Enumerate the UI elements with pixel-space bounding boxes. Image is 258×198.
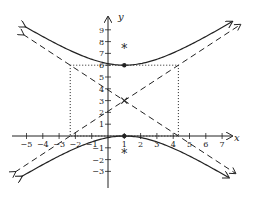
- focus-asterisk: *: [121, 42, 127, 56]
- vertex-dot: [122, 63, 126, 67]
- plot-canvas: −5−4−3−2−11234567−3−2−1123456789 ** x y: [0, 0, 258, 198]
- x-tick-label: −4: [37, 140, 49, 149]
- upper-branch: [25, 22, 232, 65]
- center-cross: [121, 98, 127, 104]
- y-tick-label: 4: [99, 85, 104, 94]
- y-axis-label: y: [117, 11, 124, 22]
- asymptote-positive: [15, 25, 240, 172]
- asymptotes: [15, 25, 240, 173]
- vertex-dot: [122, 134, 126, 138]
- x-axis-label: x: [234, 132, 240, 143]
- asymptote-negative: [23, 34, 235, 173]
- focus-asterisk: *: [121, 147, 127, 161]
- y-tick-label: 7: [99, 49, 104, 58]
- y-tick-label: 8: [99, 38, 104, 47]
- x-tick-label: −3: [53, 140, 65, 149]
- y-tick-label: −1: [92, 144, 104, 153]
- x-tick-label: −2: [70, 140, 82, 149]
- y-tick-label: 5: [99, 73, 104, 82]
- x-tick-label: 7: [220, 140, 225, 149]
- y-tick-label: −2: [92, 156, 104, 165]
- x-tick-label: 6: [203, 140, 208, 149]
- y-tick-label: 1: [99, 120, 104, 129]
- x-tick-label: 2: [138, 140, 143, 149]
- y-tick-label: −3: [92, 167, 104, 176]
- x-tick-label: 5: [187, 140, 192, 149]
- x-tick-label: −5: [21, 140, 33, 149]
- y-tick-label: 3: [99, 97, 104, 106]
- y-tick-label: 9: [99, 26, 104, 35]
- hyperbola-graph: −5−4−3−2−11234567−3−2−1123456789 ** x y: [0, 0, 258, 198]
- y-tick-label: 2: [99, 108, 104, 117]
